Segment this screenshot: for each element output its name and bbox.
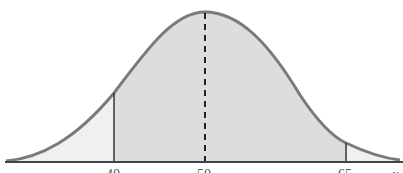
tick-label-40: 40 [106, 167, 120, 173]
left-tail-region [6, 93, 114, 161]
tick-label-65: 65 [338, 167, 352, 173]
axis-label-x: x [391, 167, 399, 173]
tick-label-50: 50 [197, 167, 211, 173]
shaded-region [114, 12, 346, 161]
normal-distribution-chart: 40 50 65 x [0, 0, 403, 173]
